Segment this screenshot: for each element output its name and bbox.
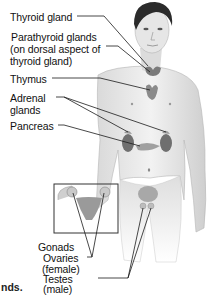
label-parathyroid-line1: Parathyroid glands (11, 31, 97, 43)
label-parathyroid-line2: (on dorsal aspect of (10, 43, 100, 55)
label-testes-male: (male) (43, 283, 72, 295)
kidney-right (160, 134, 172, 152)
label-adrenal-line1: Adrenal (10, 92, 46, 104)
label-parathyroid-line3: thyroid gland) (10, 55, 72, 67)
ovaries-inset (54, 184, 118, 233)
label-pancreas: Pancreas (10, 120, 54, 132)
label-thyroid-gland: Thyroid gland (10, 11, 72, 23)
label-thymus: Thymus (10, 73, 47, 85)
label-adrenal-line2: glands (10, 104, 40, 116)
caption-fragment: nds. (1, 281, 23, 293)
head (134, 2, 172, 53)
